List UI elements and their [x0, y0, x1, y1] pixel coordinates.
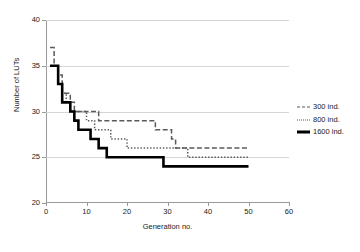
legend-label: 1600 ind. [313, 128, 344, 136]
y-axis-title: Number of LUTs [12, 58, 21, 112]
plot-area: 2025303540 0102030405060 [46, 20, 289, 203]
series-line [50, 66, 248, 167]
y-tick-label: 40 [32, 16, 40, 24]
y-tick-label: 25 [32, 154, 40, 162]
legend-item: 1600 ind. [297, 128, 344, 136]
legend-label: 800 ind. [313, 116, 340, 124]
y-tick-label: 30 [32, 108, 40, 116]
legend-item: 800 ind. [297, 116, 344, 124]
series-line [50, 47, 248, 148]
chart-legend: 300 ind.800 ind.1600 ind. [297, 103, 344, 136]
chart-figure: Number of LUTs 2025303540 0102030405060 … [0, 0, 360, 252]
legend-swatch-icon [297, 104, 310, 110]
x-tick-label: 10 [82, 208, 90, 216]
legend-item: 300 ind. [297, 103, 344, 111]
x-tick-label: 0 [44, 208, 48, 216]
y-tick-label: 20 [32, 199, 40, 207]
x-axis-title: Generation no. [46, 222, 289, 231]
x-tick-label: 20 [123, 208, 131, 216]
series-lines [46, 20, 289, 203]
x-tick-label: 30 [163, 208, 171, 216]
x-tick-label: 50 [244, 208, 252, 216]
x-tick-mark [289, 202, 290, 206]
legend-swatch-icon [297, 129, 310, 135]
y-tick-label: 35 [32, 62, 40, 70]
x-tick-label: 40 [204, 208, 212, 216]
legend-swatch-icon [297, 117, 310, 123]
x-tick-label: 60 [285, 208, 293, 216]
legend-label: 300 ind. [313, 103, 340, 111]
